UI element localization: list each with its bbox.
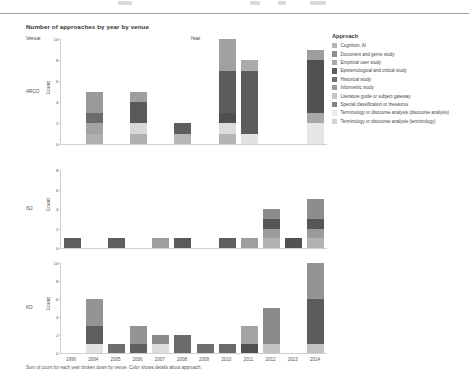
stacked-bar[interactable] [130, 326, 147, 353]
bar-segment[interactable] [64, 238, 81, 248]
stacked-bar[interactable] [307, 263, 324, 353]
bar-segment[interactable] [307, 229, 324, 239]
legend-item[interactable]: Historical study [332, 76, 468, 84]
legend-item[interactable]: Special classification or thesaurus [332, 101, 468, 109]
bar-segment[interactable] [130, 326, 147, 344]
y-tick-mark [59, 102, 61, 103]
bar-segment[interactable] [108, 238, 125, 248]
stacked-bar[interactable] [174, 335, 191, 353]
bar-segment[interactable] [307, 219, 324, 229]
stacked-bar[interactable] [219, 238, 236, 248]
bar-segment[interactable] [130, 344, 147, 353]
bar-segment[interactable] [86, 113, 103, 124]
bar-segment[interactable] [263, 209, 280, 219]
stacked-bar[interactable] [108, 344, 125, 353]
bar-segment[interactable] [241, 71, 258, 134]
bar-segment[interactable] [219, 238, 236, 248]
bar-segment[interactable] [219, 123, 236, 134]
bar-segment[interactable] [241, 238, 258, 248]
bar-segment[interactable] [219, 113, 236, 124]
bar-segment[interactable] [307, 344, 324, 353]
bar-segment[interactable] [174, 134, 191, 145]
bar-segment[interactable] [219, 134, 236, 145]
stacked-bar[interactable] [285, 238, 302, 248]
y-tick-label: 10 [54, 261, 59, 266]
stacked-bar[interactable] [108, 238, 125, 248]
bar-segment[interactable] [307, 123, 324, 144]
legend-item[interactable]: Literature guide or subject gateway [332, 92, 468, 100]
bar-segment[interactable] [241, 60, 258, 71]
stacked-bar[interactable] [219, 344, 236, 353]
bar-segment[interactable] [174, 238, 191, 248]
bar-segment[interactable] [263, 344, 280, 353]
legend-item-label: Empirical user study [340, 60, 381, 65]
bar-segment[interactable] [174, 123, 191, 134]
bar-segment[interactable] [108, 344, 125, 353]
bar-segment[interactable] [86, 326, 103, 344]
stacked-bar[interactable] [197, 344, 214, 353]
stacked-bar[interactable] [263, 308, 280, 353]
bar-segment[interactable] [241, 134, 258, 145]
stacked-bar[interactable] [307, 199, 324, 248]
bar-segment[interactable] [130, 134, 147, 145]
stacked-bar[interactable] [86, 299, 103, 353]
stacked-bar[interactable] [174, 123, 191, 144]
bar-segment[interactable] [86, 123, 103, 134]
bar-segment[interactable] [285, 238, 302, 248]
legend-item[interactable]: Empirical user study [332, 59, 468, 67]
bar-segment[interactable] [219, 71, 236, 113]
legend-item[interactable]: Epistemological and critical study [332, 67, 468, 75]
y-tick-label: 6 [56, 187, 58, 192]
bar-segment[interactable] [263, 219, 280, 229]
bar-segment[interactable] [263, 308, 280, 344]
bar-segment[interactable] [241, 344, 258, 353]
stacked-bar[interactable] [241, 326, 258, 353]
stacked-bar[interactable] [152, 238, 169, 248]
bar-segment[interactable] [307, 113, 324, 124]
bar-segment[interactable] [307, 50, 324, 61]
legend-item[interactable]: Cognition, AI [332, 42, 468, 50]
y-tick-label: 4 [56, 100, 58, 105]
stacked-bar[interactable] [174, 238, 191, 248]
bar-segment[interactable] [307, 199, 324, 219]
bar-segment[interactable] [86, 344, 103, 353]
stacked-bar[interactable] [263, 209, 280, 248]
bar-segment[interactable] [86, 134, 103, 145]
stacked-bar[interactable] [86, 92, 103, 145]
bar-segment[interactable] [263, 238, 280, 248]
bar-segment[interactable] [152, 335, 169, 344]
bar-segment[interactable] [130, 102, 147, 123]
bar-segment[interactable] [197, 344, 214, 353]
stacked-bar[interactable] [64, 238, 81, 248]
stacked-bar[interactable] [241, 238, 258, 248]
bar-segment[interactable] [263, 229, 280, 239]
bar-segment[interactable] [307, 60, 324, 113]
bar-segment[interactable] [307, 299, 324, 344]
legend-item[interactable]: Document and genre study [332, 50, 468, 58]
bar-segment[interactable] [152, 238, 169, 248]
bar-segment[interactable] [241, 326, 258, 344]
legend-item[interactable]: Terminology or discourse analysis (disco… [332, 109, 468, 117]
bar-segment[interactable] [86, 92, 103, 113]
y-tick-label: 6 [56, 79, 58, 84]
legend-item-label: Informetric study [340, 85, 373, 90]
axis-baseline [61, 144, 327, 145]
venue-panel-isj: ISJCount02468 [26, 170, 326, 248]
bar-segment[interactable] [152, 344, 169, 353]
x-tick-label: 2012 [266, 357, 276, 362]
stacked-bar[interactable] [241, 60, 258, 144]
stacked-bar[interactable] [219, 39, 236, 144]
stacked-bar[interactable] [130, 92, 147, 145]
bar-segment[interactable] [307, 238, 324, 248]
bar-segment[interactable] [307, 263, 324, 299]
legend-item[interactable]: Terminology or discourse analysis (termi… [332, 118, 468, 126]
legend-item[interactable]: Informetric study [332, 84, 468, 92]
stacked-bar[interactable] [152, 335, 169, 353]
bar-segment[interactable] [174, 335, 191, 353]
bar-segment[interactable] [219, 344, 236, 353]
stacked-bar[interactable] [307, 50, 324, 145]
bar-segment[interactable] [130, 92, 147, 103]
bar-segment[interactable] [130, 123, 147, 134]
bar-segment[interactable] [86, 299, 103, 326]
bar-segment[interactable] [219, 39, 236, 71]
